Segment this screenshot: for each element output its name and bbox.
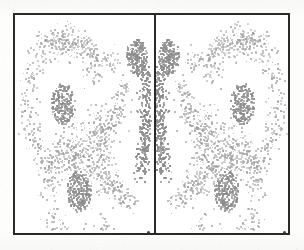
tick-left-panel	[147, 231, 150, 234]
scatter-plot-canvas	[15, 15, 288, 233]
panel-divider	[154, 15, 156, 233]
tick-right-panel	[283, 231, 286, 234]
plot-frame	[13, 13, 290, 235]
figure-root	[0, 0, 304, 250]
